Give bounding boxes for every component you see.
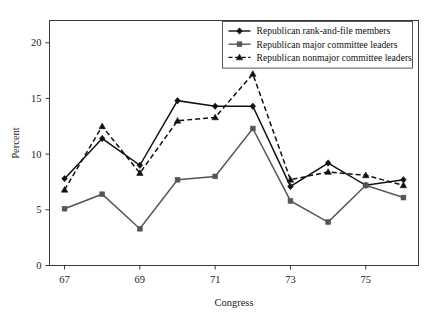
chart-legend: Republican rank-and-file membersRepublic…: [223, 22, 413, 69]
x-tick-label: 71: [210, 274, 221, 285]
data-point-marker: [250, 103, 256, 109]
x-tick-label: 69: [135, 274, 146, 285]
data-point-marker: [363, 172, 369, 178]
data-point-marker: [250, 71, 256, 77]
data-point-marker: [175, 177, 180, 182]
x-tick-label: 67: [59, 274, 70, 285]
y-axis: 05101520: [31, 21, 50, 272]
data-point-marker: [325, 160, 331, 166]
series-line: [65, 74, 404, 190]
legend-label: Republican major committee leaders: [257, 39, 398, 50]
data-series: [61, 71, 406, 192]
y-axis-title: Percent: [10, 127, 21, 159]
data-point-marker: [325, 169, 331, 175]
data-point-marker: [288, 199, 293, 204]
data-series: [62, 97, 406, 189]
data-series-group: [61, 71, 406, 231]
data-point-marker: [212, 103, 218, 109]
data-point-marker: [137, 226, 142, 231]
data-point-marker: [100, 192, 105, 197]
legend-label: Republican rank-and-file members: [257, 25, 391, 36]
y-tick-label: 10: [31, 149, 42, 160]
data-point-marker: [288, 183, 294, 189]
line-chart: 05101520 6769717375 Percent Congress Rep…: [0, 0, 437, 317]
data-point-marker: [213, 174, 218, 179]
x-tick-label: 73: [285, 274, 296, 285]
data-point-marker: [62, 206, 67, 211]
data-point-marker: [237, 42, 242, 47]
y-tick-label: 5: [36, 204, 41, 215]
legend-label: Republican nonmajor committee leaders: [257, 52, 413, 63]
data-point-marker: [400, 182, 406, 188]
x-tick-label: 75: [361, 274, 372, 285]
y-tick-label: 0: [36, 260, 41, 271]
data-point-marker: [326, 220, 331, 225]
x-axis-title: Congress: [214, 297, 253, 308]
data-point-marker: [363, 183, 368, 188]
series-line: [65, 129, 404, 229]
y-tick-label: 20: [31, 37, 42, 48]
x-axis: 6769717375: [50, 266, 419, 285]
y-tick-label: 15: [31, 93, 42, 104]
data-point-marker: [99, 123, 105, 129]
chart-container: 05101520 6769717375 Percent Congress Rep…: [0, 0, 437, 317]
data-point-marker: [401, 195, 406, 200]
data-point-marker: [250, 126, 255, 131]
